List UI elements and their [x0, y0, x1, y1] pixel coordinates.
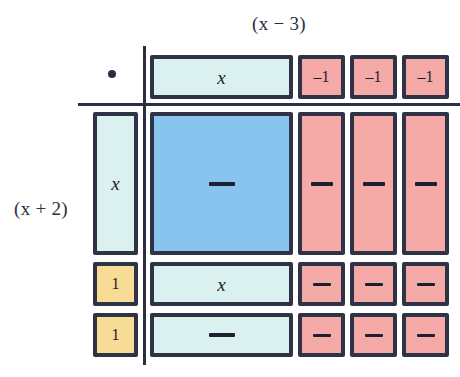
multiplication-dot-icon: [108, 70, 116, 78]
column-header-tile-1: –1: [298, 55, 345, 99]
tile-mark: [417, 334, 435, 337]
row-header-tile-1: 1: [93, 262, 138, 306]
row-header-tile-2: 1: [93, 313, 138, 357]
column-header-tile-2: –1: [350, 55, 397, 99]
product-tile-r1c2: [350, 262, 397, 306]
tile-mark: [365, 283, 383, 286]
tile-mark: [417, 283, 435, 286]
product-tile-r1c3: [402, 262, 449, 306]
top-factor-label: (x − 3): [252, 13, 306, 35]
product-tile-r2c2: [350, 313, 397, 357]
tile-mark: [209, 333, 235, 337]
product-tile-r0c0: [150, 112, 293, 255]
product-tile-r0c1: [298, 112, 345, 255]
tile-mark: [311, 182, 333, 186]
column-header-tile-3: –1: [402, 55, 449, 99]
product-tile-r1c0: x: [150, 262, 293, 306]
product-tile-r0c2: [350, 112, 397, 255]
tile-label: x: [111, 174, 119, 193]
tile-mark: [365, 334, 383, 337]
column-header-tile-0: x: [150, 55, 293, 99]
product-tile-r0c3: [402, 112, 449, 255]
tile-label: 1: [112, 276, 120, 292]
tile-label: x: [217, 275, 225, 294]
tile-mark: [363, 182, 385, 186]
horizontal-divider: [78, 103, 460, 106]
row-header-tile-0: x: [93, 112, 138, 255]
tile-label: 1: [112, 327, 120, 343]
product-tile-r2c0: [150, 313, 293, 357]
tile-label: –1: [314, 69, 330, 85]
tile-mark: [313, 283, 331, 286]
tile-mark: [415, 182, 437, 186]
tile-label: –1: [418, 69, 434, 85]
tile-mark: [313, 334, 331, 337]
product-tile-r1c1: [298, 262, 345, 306]
left-factor-label: (x + 2): [14, 198, 68, 220]
algebra-tiles-diagram: (x − 3) (x + 2) x –1 –1 –1 x 1 1 x: [0, 0, 460, 377]
tile-label: –1: [366, 69, 382, 85]
vertical-divider: [143, 46, 146, 365]
product-tile-r2c1: [298, 313, 345, 357]
tile-mark: [209, 182, 235, 186]
product-tile-r2c3: [402, 313, 449, 357]
tile-label: x: [217, 68, 225, 87]
